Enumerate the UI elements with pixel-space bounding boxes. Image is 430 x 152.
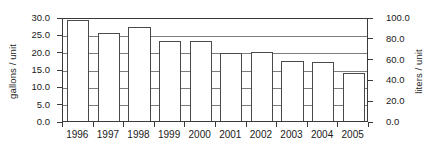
x-axis-tick-mark — [62, 122, 63, 127]
x-axis-tick-mark — [215, 122, 216, 127]
x-axis-tick-mark — [246, 122, 247, 127]
y-axis-left-tick-mark — [57, 104, 62, 105]
y-axis-right-tick-mark — [368, 18, 373, 19]
y-axis-right-tick-mark — [368, 80, 373, 81]
x-axis-tick-mark — [93, 122, 94, 127]
y-axis-left-tick-label: 30.0 — [32, 13, 51, 23]
y-axis-right-tick-mark — [368, 38, 373, 39]
y-axis-left-title: gallons / unit — [7, 22, 18, 122]
x-axis-tick-mark — [368, 122, 369, 127]
x-axis-category-label: 2000 — [184, 130, 215, 140]
y-axis-right-tick-mark — [368, 59, 373, 60]
bar — [343, 73, 365, 121]
y-axis-right-tick-label: 40.0 — [386, 75, 405, 85]
bar — [159, 41, 181, 121]
y-axis-left-tick-labels: 0.05.010.015.020.025.030.0 — [21, 0, 55, 152]
y-axis-right-tick-label: 20.0 — [386, 96, 405, 106]
x-axis-category-label: 2001 — [215, 130, 246, 140]
x-axis-category-label: 1997 — [93, 130, 124, 140]
x-axis-category-label: 1999 — [154, 130, 185, 140]
bar — [220, 53, 242, 121]
x-axis-category-label: 1998 — [123, 130, 154, 140]
y-axis-left-tick-mark — [57, 87, 62, 88]
y-axis-left-tick-label: 10.0 — [32, 82, 51, 92]
x-axis-category-label: 2003 — [276, 130, 307, 140]
x-axis-tick-mark — [123, 122, 124, 127]
x-axis-category-label: 2005 — [337, 130, 368, 140]
y-axis-right-tick-label: 100.0 — [386, 13, 410, 23]
y-axis-left-tick-label: 15.0 — [32, 65, 51, 75]
y-axis-left-tick-label: 25.0 — [32, 30, 51, 40]
y-axis-right-tick-mark — [368, 101, 373, 102]
x-axis-category-label: 1996 — [62, 130, 93, 140]
y-axis-left-tick-mark — [57, 70, 62, 71]
x-axis-tick-mark — [154, 122, 155, 127]
y-axis-left-tick-label: 0.0 — [37, 117, 50, 127]
bar — [251, 52, 273, 121]
x-axis-tick-mark — [184, 122, 185, 127]
bar — [312, 62, 334, 121]
bar — [281, 61, 303, 121]
bar-series — [63, 19, 367, 121]
bar-chart: gallons / unit liters / unit 0.05.010.01… — [0, 0, 430, 152]
y-axis-left-tick-label: 5.0 — [37, 100, 50, 110]
y-axis-left-tick-mark — [57, 35, 62, 36]
y-axis-left-tick-mark — [57, 18, 62, 19]
x-axis-category-label: 2002 — [246, 130, 277, 140]
bar — [98, 33, 120, 121]
y-axis-left-tick-label: 20.0 — [32, 48, 51, 58]
y-axis-left-tick-mark — [57, 52, 62, 53]
bar — [128, 27, 150, 121]
bar — [67, 20, 89, 121]
x-axis-category-label: 2004 — [307, 130, 338, 140]
plot-area — [62, 18, 368, 122]
y-axis-right-tick-label: 60.0 — [386, 55, 405, 65]
y-axis-right-tick-label: 0.0 — [386, 117, 399, 127]
x-axis-tick-mark — [337, 122, 338, 127]
bar — [190, 41, 212, 121]
x-axis-tick-mark — [307, 122, 308, 127]
y-axis-right-tick-label: 80.0 — [386, 34, 405, 44]
x-axis-category-labels: 1996199719981999200020012002200320042005 — [62, 130, 368, 146]
y-axis-right-tick-labels: 0.020.040.060.080.0100.0 — [381, 0, 415, 152]
x-axis-tick-mark — [276, 122, 277, 127]
